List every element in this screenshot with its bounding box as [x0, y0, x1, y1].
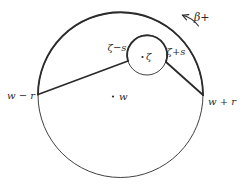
contour-diagram-canvas: w − r w + r w ζ−s ζ+s ζ β+: [0, 0, 246, 192]
label-outer-left: w − r: [7, 90, 36, 101]
label-outer-center: w: [119, 91, 128, 102]
zeta-center-dot: [141, 56, 143, 58]
contour-figure: w − r w + r w ζ−s ζ+s ζ β+: [0, 0, 246, 192]
w-center-dot: [112, 95, 114, 97]
label-inner-center: ζ: [146, 51, 152, 62]
label-orientation: β+: [193, 11, 210, 24]
dot-group: [112, 56, 144, 98]
label-inner-right: ζ+s: [167, 46, 186, 57]
label-inner-left: ζ−s: [108, 42, 127, 53]
label-outer-right: w + r: [208, 96, 237, 107]
left-chord: [38, 61, 128, 95]
